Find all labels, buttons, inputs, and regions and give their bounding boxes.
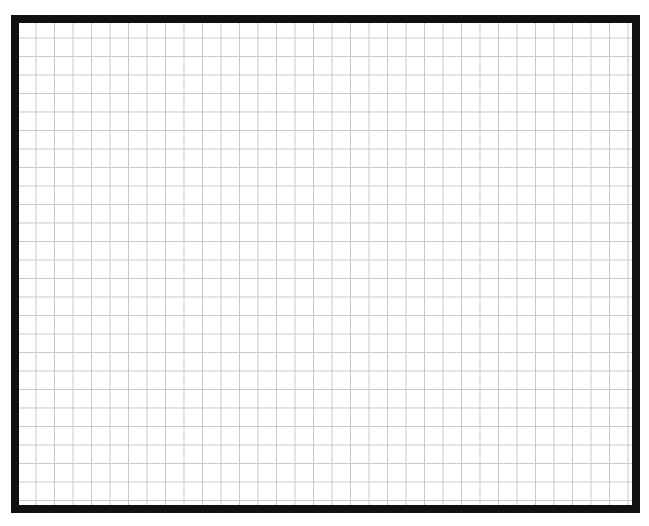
grid-canvas[interactable] <box>11 15 640 513</box>
